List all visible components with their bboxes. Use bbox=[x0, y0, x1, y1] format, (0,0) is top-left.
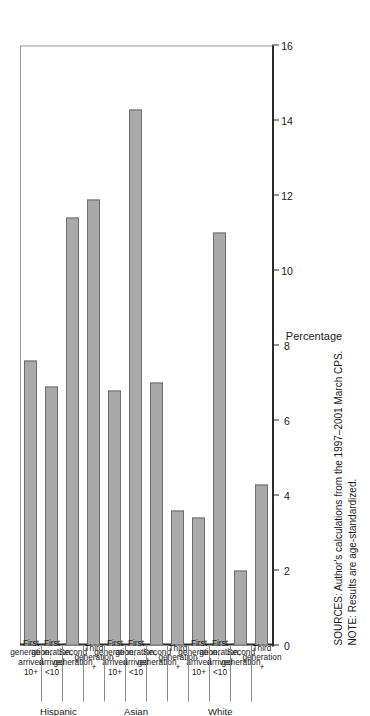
category-separator bbox=[251, 645, 252, 701]
group-label-asian: Asian bbox=[124, 705, 148, 716]
axis-tick-label: 12 bbox=[267, 189, 307, 201]
category-separator bbox=[167, 645, 168, 701]
axis-tick-label: 4 bbox=[267, 489, 307, 501]
category-separator bbox=[83, 645, 84, 701]
bar bbox=[24, 360, 37, 645]
value-axis: Percentage 1614121086420 bbox=[272, 45, 332, 645]
category-separator bbox=[188, 645, 189, 701]
axis-tick-label: 14 bbox=[267, 114, 307, 126]
category-separator bbox=[230, 645, 231, 701]
axis-tick-label: 16 bbox=[267, 39, 307, 51]
axis-tick-label: 2 bbox=[267, 564, 307, 576]
bar bbox=[129, 109, 142, 645]
plot-area bbox=[20, 45, 272, 645]
bar bbox=[171, 510, 184, 645]
category-separator bbox=[104, 645, 105, 701]
axis-tick-label: 10 bbox=[267, 264, 307, 276]
group-label-white: White bbox=[208, 705, 233, 716]
footnotes: SOURCES: Author's calculations from the … bbox=[332, 15, 360, 645]
category-separator bbox=[146, 645, 147, 701]
axis-tick-label: 8 bbox=[267, 339, 307, 351]
category-label-line2: generation + bbox=[242, 653, 281, 672]
bar bbox=[192, 518, 205, 646]
category-axis: Firstgeneration, arrived 10+Firstgenerat… bbox=[20, 645, 272, 701]
category-separator bbox=[125, 645, 126, 701]
bar bbox=[150, 383, 163, 646]
category-label: Thirdgeneration + bbox=[251, 631, 272, 685]
category-separator bbox=[209, 645, 210, 701]
axis-tick-label: 6 bbox=[267, 414, 307, 426]
bar bbox=[66, 218, 79, 646]
bar bbox=[108, 390, 121, 645]
bar bbox=[213, 233, 226, 646]
sources-text: SOURCES: Author's calculations from the … bbox=[332, 15, 346, 645]
bar bbox=[45, 386, 58, 645]
category-separator bbox=[62, 645, 63, 701]
category-separator bbox=[41, 645, 42, 701]
group-label-hispanic: Hispanic bbox=[40, 705, 77, 716]
bar bbox=[87, 199, 100, 645]
note-text: NOTE: Results are age-standardized. bbox=[346, 15, 360, 645]
